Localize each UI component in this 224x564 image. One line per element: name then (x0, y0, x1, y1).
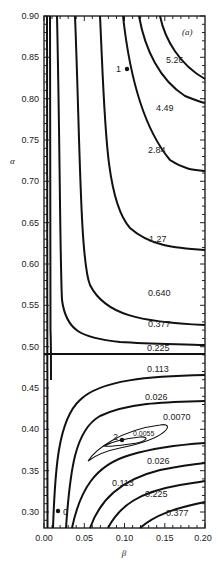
svg-text:0.026: 0.026 (145, 392, 168, 402)
x-axis-label: β (121, 548, 127, 558)
svg-text:0.05: 0.05 (76, 533, 94, 543)
lower-contours (53, 375, 205, 528)
panel-label: (a) (182, 27, 193, 37)
svg-text:0.377: 0.377 (166, 508, 189, 518)
svg-text:0.0070: 0.0070 (163, 412, 191, 422)
contour-0640 (75, 16, 205, 325)
y-axis-label: α (10, 156, 15, 166)
svg-text:1.27: 1.27 (149, 234, 167, 244)
svg-text:0.225: 0.225 (145, 489, 168, 499)
svg-text:0.50: 0.50 (21, 342, 39, 352)
svg-text:0.90: 0.90 (21, 11, 39, 21)
svg-text:0.113: 0.113 (147, 364, 169, 374)
svg-text:5.26: 5.26 (166, 55, 184, 65)
svg-text:0.70: 0.70 (21, 176, 39, 186)
y-tick-labels: 0.90 0.85 0.80 0.75 0.70 0.65 0.60 0.55 … (21, 11, 39, 517)
svg-text:0.85: 0.85 (21, 52, 39, 62)
svg-text:0.40: 0.40 (21, 424, 39, 434)
svg-text:0.225: 0.225 (147, 343, 170, 353)
svg-text:0.640: 0.640 (148, 288, 171, 298)
contour-left-1 (47, 16, 48, 528)
svg-text:1: 1 (116, 64, 121, 74)
svg-text:0.35: 0.35 (21, 466, 39, 476)
contour-chart: 0.90 0.85 0.80 0.75 0.70 0.65 0.60 0.55 … (0, 0, 224, 564)
svg-text:4.49: 4.49 (156, 103, 174, 113)
svg-text:0.75: 0.75 (21, 135, 39, 145)
upper-contours (44, 16, 205, 528)
svg-text:2: 2 (113, 432, 118, 442)
contour-labels: 5.26 4.49 2.84 1.27 0.640 0.377 0.225 0.… (63, 55, 191, 518)
svg-text:0.377: 0.377 (148, 319, 171, 329)
svg-text:0.15: 0.15 (156, 533, 174, 543)
svg-text:0.026: 0.026 (147, 456, 170, 466)
svg-text:2.84: 2.84 (148, 145, 166, 155)
x-tick-labels: 0.00 0.05 0.10 0.15 0.20 (35, 533, 212, 543)
svg-text:0.00: 0.00 (35, 533, 53, 543)
svg-text:0.10: 0.10 (116, 533, 134, 543)
contour-left-2 (50, 16, 51, 380)
svg-text:0.20: 0.20 (194, 533, 212, 543)
svg-text:0.65: 0.65 (21, 218, 39, 228)
svg-text:0.0055: 0.0055 (133, 430, 155, 437)
contour-526 (160, 16, 205, 79)
svg-text:0.80: 0.80 (21, 94, 39, 104)
svg-text:0.60: 0.60 (21, 259, 39, 269)
svg-text:0: 0 (63, 507, 68, 517)
svg-text:0.30: 0.30 (21, 507, 39, 517)
svg-text:0.55: 0.55 (21, 300, 39, 310)
svg-text:0.45: 0.45 (21, 383, 39, 393)
svg-text:0.113: 0.113 (112, 478, 134, 488)
